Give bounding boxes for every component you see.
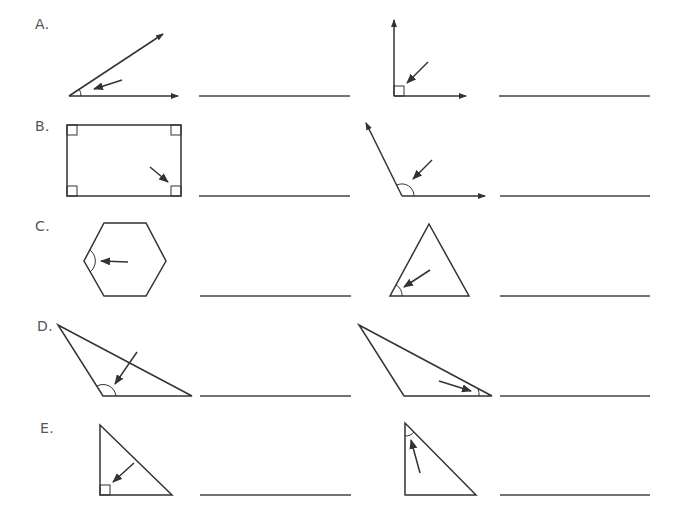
figure-rectangle xyxy=(67,125,181,196)
worksheet-canvas xyxy=(0,0,682,522)
pointer-arrow-icon xyxy=(150,167,168,182)
pointer-arrow-icon xyxy=(407,62,428,83)
figure-acute-angle xyxy=(69,34,178,96)
figure-obtuse-triangle-2 xyxy=(359,325,492,396)
figure-right-triangle xyxy=(100,425,172,495)
pointer-arrow-icon xyxy=(113,463,134,482)
figure-obtuse-triangle xyxy=(58,325,192,396)
figure-right-angle xyxy=(394,20,466,96)
pointer-arrow-icon xyxy=(101,261,128,262)
pointer-arrow-icon xyxy=(411,440,420,473)
figure-right-triangle-2 xyxy=(405,423,476,495)
figure-obtuse-angle xyxy=(366,123,485,196)
figure-hexagon xyxy=(84,223,166,296)
pointer-arrow-icon xyxy=(413,160,432,179)
figure-equilateral-triangle xyxy=(390,224,469,296)
pointer-arrow-icon xyxy=(404,270,430,287)
pointer-arrow-icon xyxy=(94,80,122,89)
